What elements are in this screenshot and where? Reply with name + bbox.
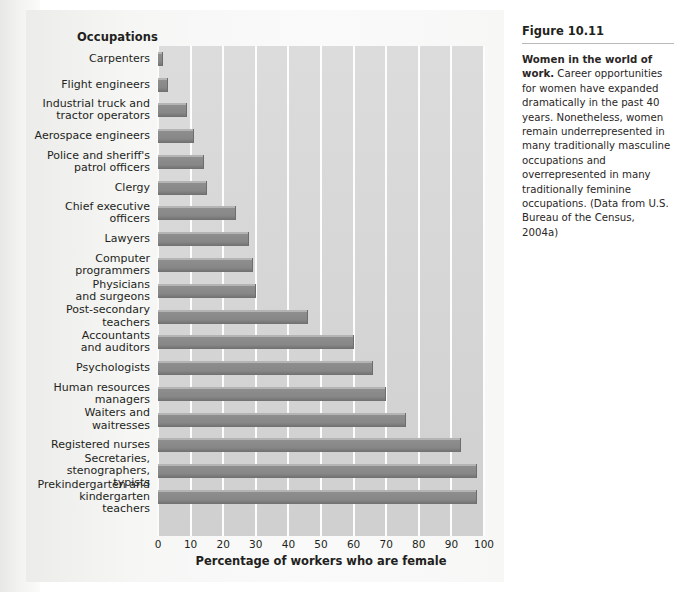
bar-row [158,252,484,278]
value-axis-tick-label: 70 [380,538,393,550]
value-axis-tick-label: 40 [282,538,295,550]
bar [158,78,168,92]
bar [158,103,187,117]
category-axis-labels: CarpentersFlight engineersIndustrial tru… [30,46,154,536]
bar [158,361,373,375]
bar-row [158,98,484,124]
category-label: Carpenters [30,46,154,72]
category-label: Waiters and waitresses [30,407,154,433]
bar-row [158,175,484,201]
bar [158,155,204,169]
figure-page: Occupations CarpentersFlight engineersIn… [0,0,694,592]
value-axis-tick-label: 90 [445,538,458,550]
category-label: Psychologists [30,355,154,381]
bar-rows [158,46,484,536]
category-label: Post-secondary teachers [30,304,154,330]
bar-row [158,432,484,458]
category-label: Police and sheriff's patrol officers [30,149,154,175]
figure-number: Figure 10.11 [522,24,674,43]
bar-row [158,304,484,330]
caption-divider [522,43,674,44]
value-axis-tick-label: 60 [347,538,360,550]
value-axis-tick-label: 30 [249,538,262,550]
bar [158,284,256,298]
bar-row [158,149,484,175]
category-label: Human resources managers [30,381,154,407]
value-axis-tick-label: 10 [184,538,197,550]
bar-row [158,201,484,227]
bar [158,258,253,272]
category-axis-title: Occupations [30,30,158,44]
bar [158,490,477,504]
bar-row [158,72,484,98]
bar [158,413,406,427]
bar [158,52,163,66]
bar [158,181,207,195]
category-label: Prekindergarten and kindergarten teacher… [30,484,154,510]
category-label: Accountants and auditors [30,329,154,355]
figure-caption-text: Women in the world of work. Career oppor… [522,53,674,240]
bar-chart: Occupations CarpentersFlight engineersIn… [30,22,500,572]
category-label: Chief executive officers [30,201,154,227]
value-axis-title: Percentage of workers who are female [158,554,484,568]
bar-row [158,407,484,433]
caption-body: Career opportunities for women have expa… [522,68,670,237]
bar [158,438,461,452]
figure-caption-block: Figure 10.11 Women in the world of work.… [522,24,674,240]
bar-row [158,458,484,484]
bar [158,206,236,220]
bar [158,464,477,478]
bar-row [158,329,484,355]
bar [158,232,249,246]
category-label: Lawyers [30,226,154,252]
bar-row [158,355,484,381]
category-label: Physicians and surgeons [30,278,154,304]
category-label: Clergy [30,175,154,201]
bar [158,387,386,401]
value-axis-tick-label: 50 [314,538,327,550]
bar [158,310,308,324]
category-label: Flight engineers [30,72,154,98]
category-label: Industrial truck and tractor operators [30,98,154,124]
category-label: Computer programmers [30,252,154,278]
bar [158,335,354,349]
bar-row [158,123,484,149]
value-axis-tick-label: 20 [217,538,230,550]
plot-area [158,46,484,536]
bar-row [158,484,484,510]
value-axis-ticks: 0102030405060708090100 [158,536,484,556]
value-axis-tick-label: 80 [412,538,425,550]
value-axis-tick-label: 100 [474,538,494,550]
value-axis-tick-label: 0 [155,538,162,550]
bar-row [158,226,484,252]
bar [158,129,194,143]
category-label: Aerospace engineers [30,123,154,149]
bar-row [158,278,484,304]
bar-row [158,381,484,407]
bar-row [158,46,484,72]
